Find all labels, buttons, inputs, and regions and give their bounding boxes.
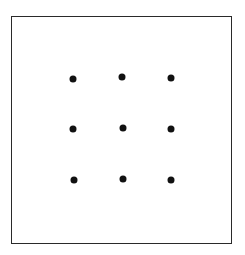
dot-r3-c1 — [71, 177, 78, 184]
dot-r1-c1 — [70, 76, 77, 83]
dot-r3-c3 — [168, 177, 175, 184]
dot-r2-c1 — [70, 126, 77, 133]
dot-r3-c2 — [120, 176, 127, 183]
dot-r2-c2 — [120, 125, 127, 132]
dot-r1-c3 — [168, 75, 175, 82]
dot-r2-c3 — [168, 126, 175, 133]
dot-r1-c2 — [119, 74, 126, 81]
